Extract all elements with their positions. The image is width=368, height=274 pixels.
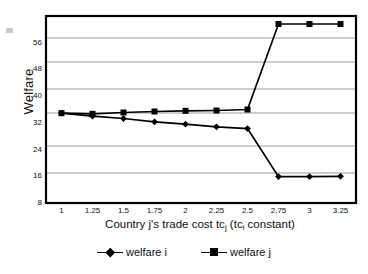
x-tick-label: 3 — [294, 206, 326, 215]
y-tick-label: 24 — [18, 145, 42, 154]
data-point-marker — [245, 107, 251, 113]
x-tick-label: 1.25 — [77, 206, 109, 215]
data-point-marker — [276, 21, 282, 27]
y-tick-label: 56 — [18, 38, 42, 47]
x-tick-label: 2.5 — [232, 206, 264, 215]
chart-canvas — [0, 0, 368, 274]
y-tick-label: 16 — [18, 171, 42, 180]
x-title-mid: (tc — [227, 218, 243, 230]
x-tick-label: 2 — [170, 206, 202, 215]
data-point-marker — [307, 21, 313, 27]
y-tick-label: 8 — [18, 198, 42, 207]
chart-legend: welfare iwelfare j — [0, 246, 368, 258]
x-title-suffix: constant) — [244, 218, 295, 230]
data-point-marker — [182, 121, 189, 128]
data-point-marker — [151, 118, 158, 125]
series-layer — [58, 21, 344, 180]
data-point-marker — [338, 21, 344, 27]
y-tick-label: 32 — [18, 118, 42, 127]
legend-marker-square-icon — [210, 248, 218, 256]
y-tick-label: 48 — [18, 64, 42, 73]
legend-item-welfare-j[interactable]: welfare j — [201, 246, 271, 258]
x-tick-label: 3.25 — [325, 206, 357, 215]
legend-marker-diamond-icon — [105, 247, 114, 256]
x-tick-label: 2.25 — [201, 206, 233, 215]
series-line-welfare-j — [62, 24, 341, 114]
data-point-marker — [214, 108, 220, 114]
x-title-prefix: Country j's trade cost tc — [105, 218, 225, 230]
data-point-marker — [337, 173, 344, 180]
legend-item-welfare-i[interactable]: welfare i — [97, 246, 167, 258]
data-point-marker — [183, 108, 189, 114]
x-tick-label: 2.75 — [263, 206, 295, 215]
data-point-marker — [90, 111, 96, 117]
data-point-marker — [152, 109, 158, 115]
grid-lines — [46, 38, 356, 173]
x-tick-label: 1 — [46, 206, 78, 215]
data-point-marker — [120, 115, 127, 122]
legend-label: welfare j — [230, 246, 271, 258]
data-point-marker — [121, 110, 127, 116]
data-point-marker — [306, 173, 313, 180]
data-point-marker — [213, 123, 220, 130]
x-tick-label: 1.75 — [139, 206, 171, 215]
legend-swatch-icon — [97, 247, 123, 257]
welfare-line-chart: Welfare 8162432404856 11.251.51.7522.252… — [0, 0, 368, 274]
x-tick-label: 1.5 — [108, 206, 140, 215]
series-line-welfare-i — [62, 113, 341, 176]
legend-swatch-icon — [201, 247, 227, 257]
legend-label: welfare i — [126, 246, 167, 258]
y-tick-label: 40 — [18, 91, 42, 100]
x-axis-title: Country j's trade cost tcj (tci constant… — [40, 218, 360, 232]
data-point-marker — [59, 110, 65, 116]
